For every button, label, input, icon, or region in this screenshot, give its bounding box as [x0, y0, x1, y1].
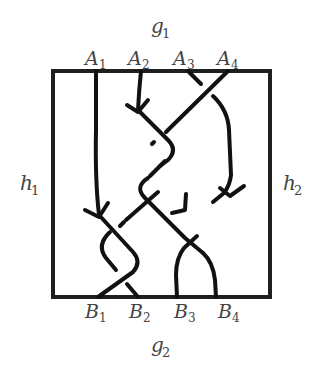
label-a3: A 3	[171, 47, 195, 72]
braid-diagram: g 1 g 2 h 1 h 2 A 1 A 2 A 3 A 4 B 1 B 2 …	[0, 0, 323, 372]
svg-text:A: A	[171, 47, 187, 69]
label-b4: B 4	[217, 300, 240, 325]
label-b2: B 2	[128, 300, 151, 325]
label-a4: A 4	[215, 47, 239, 72]
svg-text:B: B	[128, 300, 143, 322]
strand-mid-crossings	[150, 161, 165, 176]
svg-text:A: A	[126, 47, 142, 69]
label-b1: B 1	[84, 300, 107, 325]
svg-text:4: 4	[232, 311, 240, 325]
svg-text:2: 2	[162, 345, 170, 360]
svg-text:A: A	[83, 47, 99, 69]
svg-text:2: 2	[294, 183, 302, 198]
svg-text:2: 2	[143, 311, 151, 325]
label-a1: A 1	[83, 47, 107, 72]
svg-text:1: 1	[31, 183, 39, 198]
svg-text:1: 1	[162, 26, 170, 41]
label-g1: g 1	[151, 14, 170, 41]
label-b3: B 3	[173, 300, 196, 325]
svg-text:B: B	[217, 300, 232, 322]
svg-text:1: 1	[99, 311, 107, 325]
label-a2: A 2	[126, 47, 150, 72]
label-h2: h 2	[283, 171, 302, 198]
braid-box	[53, 71, 270, 297]
svg-text:3: 3	[188, 311, 196, 325]
label-h1: h 1	[20, 171, 39, 198]
label-g2: g 2	[151, 333, 170, 360]
svg-text:B: B	[84, 300, 99, 322]
strand-a3	[188, 71, 244, 202]
strand-a2	[127, 71, 216, 297]
arrow-head-icon	[172, 194, 186, 213]
svg-text:B: B	[173, 300, 188, 322]
svg-text:A: A	[215, 47, 231, 69]
